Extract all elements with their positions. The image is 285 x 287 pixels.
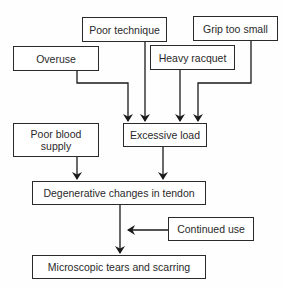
node-poor-blood-supply: Poor blood supply — [13, 123, 99, 157]
node-microscopic-tears: Microscopic tears and scarring — [32, 255, 206, 279]
node-label: Grip too small — [203, 23, 268, 35]
node-grip-too-small: Grip too small — [193, 16, 278, 41]
node-overuse: Overuse — [13, 46, 99, 71]
flowchart: Overuse Poor technique Grip too small He… — [0, 0, 285, 287]
node-poor-technique: Poor technique — [82, 17, 167, 42]
node-degenerative-changes: Degenerative changes in tendon — [32, 181, 206, 205]
node-continued-use: Continued use — [168, 217, 254, 241]
node-label: Continued use — [177, 223, 245, 235]
node-heavy-racquet: Heavy racquet — [150, 45, 235, 70]
node-label: Poor technique — [89, 24, 160, 36]
node-excessive-load: Excessive load — [123, 123, 207, 147]
node-label: Heavy racquet — [159, 52, 227, 64]
node-label: Excessive load — [130, 129, 200, 141]
node-label: Overuse — [36, 53, 76, 65]
node-label: Microscopic tears and scarring — [48, 261, 190, 273]
node-label: Degenerative changes in tendon — [43, 187, 194, 199]
node-label: Poor blood supply — [26, 128, 86, 152]
